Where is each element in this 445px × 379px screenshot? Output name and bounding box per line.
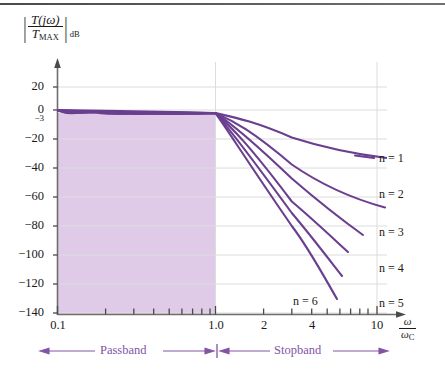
curve-label-n2: n = 2	[379, 187, 404, 202]
x-tick-label-2: 2	[244, 318, 284, 333]
y-tick-label-minus60: −60	[0, 189, 44, 204]
vertical-gridlines	[216, 62, 378, 313]
curve-label-n5: n = 5	[379, 296, 404, 311]
x-tick-label-1-0: 1.0	[196, 318, 236, 333]
y-tick-label-minus3: −3	[0, 113, 44, 123]
x-axis-label: ω ωC	[399, 316, 416, 341]
x-axis-denominator: ωC	[399, 329, 416, 342]
y-tick-label-minus80: −80	[0, 218, 44, 233]
curve-label-n1: n = 1	[379, 151, 404, 166]
curve-label-n3: n = 3	[379, 225, 404, 240]
y-tick-label-minus120: −120	[0, 276, 44, 291]
curve-label-n4: n = 4	[379, 261, 404, 276]
passband-shade	[58, 113, 216, 315]
y-tick-label-minus20: −20	[0, 131, 44, 146]
y-tick-label-20: 20	[0, 79, 44, 94]
x-axis-numerator: ω	[399, 316, 416, 329]
x-tick-label-10: 10	[357, 318, 397, 333]
stopband-label: Stopband	[274, 343, 321, 358]
passband-label: Passband	[100, 343, 147, 358]
x-tick-label-4: 4	[292, 318, 332, 333]
y-tick-label-minus100: −100	[0, 247, 44, 262]
curve-label-n6: n = 6	[293, 294, 318, 309]
y-tick-label-minus40: −40	[0, 160, 44, 175]
x-tick-label-0-1: 0.1	[38, 318, 78, 333]
band-arrows	[40, 344, 388, 358]
